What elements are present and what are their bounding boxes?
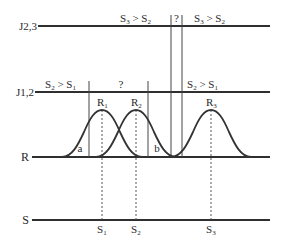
j12-region-right-label: S2 > S1 bbox=[187, 78, 218, 92]
j23-region-right-label: S3 > S2 bbox=[194, 12, 225, 26]
response-curve-r1 bbox=[62, 110, 142, 157]
response-discrimination-diagram: J2,3 J1,2 R S S3 > S2 ? S3 > S2 S2 > S1 … bbox=[0, 0, 286, 244]
response-curve-r3 bbox=[171, 110, 251, 157]
axis-label-r: R bbox=[21, 150, 29, 164]
region-label-a: a bbox=[78, 142, 83, 154]
region-label-b: b bbox=[154, 142, 160, 154]
stimulus-label-s2: S2 bbox=[131, 223, 141, 237]
stimulus-label-s1: S1 bbox=[97, 223, 107, 237]
axis-label-s: S bbox=[22, 213, 29, 227]
j23-region-mid-label: ? bbox=[174, 12, 179, 24]
stimulus-label-s3: S3 bbox=[206, 223, 216, 237]
response-label-r1: R1 bbox=[97, 96, 108, 110]
j12-region-left-label: S2 > S1 bbox=[45, 78, 76, 92]
response-curve-r2 bbox=[96, 110, 176, 157]
j12-region-mid-label: ? bbox=[119, 78, 124, 90]
response-label-r3: R3 bbox=[206, 96, 217, 110]
axis-label-j23: J2,3 bbox=[19, 20, 38, 32]
axis-label-j12: J1,2 bbox=[16, 86, 34, 98]
response-label-r2: R2 bbox=[131, 96, 142, 110]
j23-region-left-label: S3 > S2 bbox=[120, 12, 151, 26]
